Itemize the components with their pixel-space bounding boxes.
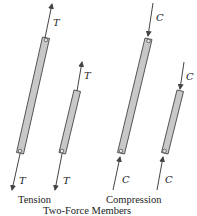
- tension-short-bar: [59, 90, 81, 154]
- compression-short-bar: [162, 90, 184, 154]
- tension-short-bottom-arrow: [55, 154, 62, 190]
- tension-long-top-arrow: [45, 4, 52, 38]
- compression-long-top-pin: [147, 39, 151, 43]
- tension-short-bottom-pin: [60, 149, 64, 153]
- compression-caption: Compression: [106, 194, 162, 205]
- tension-short-top-label: T: [84, 70, 92, 81]
- tension-short-bottom-label: T: [63, 175, 71, 186]
- compression-short-member: C C: [157, 62, 194, 190]
- compression-long-bar: [118, 38, 153, 154]
- tension-long-bar: [17, 37, 50, 154]
- tension-long-bottom-pin: [18, 149, 22, 153]
- tension-long-top-label: T: [53, 17, 61, 28]
- compression-long-bottom-label: C: [122, 174, 130, 185]
- diagram-title: Two-Force Members: [43, 205, 131, 216]
- compression-short-bottom-pin: [163, 149, 167, 153]
- compression-short-top-arrow: [180, 62, 184, 89]
- compression-short-top-label: C: [186, 71, 194, 82]
- tension-short-member: T T: [55, 62, 92, 190]
- compression-long-bottom-pin: [119, 149, 123, 153]
- compression-long-member: C C: [113, 3, 164, 190]
- tension-short-top-arrow: [77, 62, 82, 91]
- tension-long-bottom-label: T: [19, 175, 27, 186]
- compression-short-bottom-arrow: [157, 157, 163, 190]
- compression-long-top-arrow: [148, 3, 153, 36]
- tension-caption: Tension: [18, 194, 52, 205]
- tension-long-member: T T: [12, 4, 61, 190]
- two-force-members-diagram: T T T T C C C C Tension Compression Two-…: [0, 0, 197, 216]
- compression-short-bottom-label: C: [165, 174, 173, 185]
- tension-long-top-pin: [44, 38, 48, 42]
- compression-long-bottom-arrow: [113, 157, 120, 190]
- compression-long-top-label: C: [156, 12, 164, 23]
